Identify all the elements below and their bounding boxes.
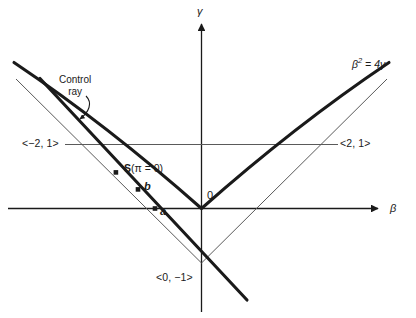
s-symbol: S: [124, 162, 131, 174]
control-ray-annotation: Control ray: [59, 74, 91, 98]
marker-point-a: [153, 206, 158, 211]
vector-label-left: <−2, 1>: [22, 138, 59, 149]
s-argument: (π = 0): [131, 162, 163, 174]
diagram-svg: [0, 0, 416, 318]
equation-rest: = 4γ: [362, 58, 385, 70]
figure-canvas: γ β 0 β2 = 4γ Control ray S(π = 0) b a <…: [0, 0, 416, 318]
marker-s-point: [114, 170, 119, 175]
tangent-line-left: [16, 79, 202, 263]
x-axis-label: β: [390, 203, 396, 214]
control-ray-line-2: ray: [59, 86, 91, 98]
parabola-equation-label: β2 = 4γ: [352, 57, 385, 69]
marker-point-b: [136, 187, 141, 192]
control-ray-line-1: Control: [59, 74, 91, 86]
vector-label-right: <2, 1>: [340, 138, 370, 149]
point-b-label: b: [144, 181, 151, 192]
vector-label-bottom: <0, −1>: [156, 272, 193, 283]
tangent-line-right: [202, 79, 388, 263]
axis-group: [8, 24, 378, 312]
s-point-label: S(π = 0): [124, 163, 163, 174]
y-axis-label: γ: [197, 6, 203, 17]
origin-label: 0: [207, 190, 213, 201]
point-a-label: a: [160, 206, 166, 217]
